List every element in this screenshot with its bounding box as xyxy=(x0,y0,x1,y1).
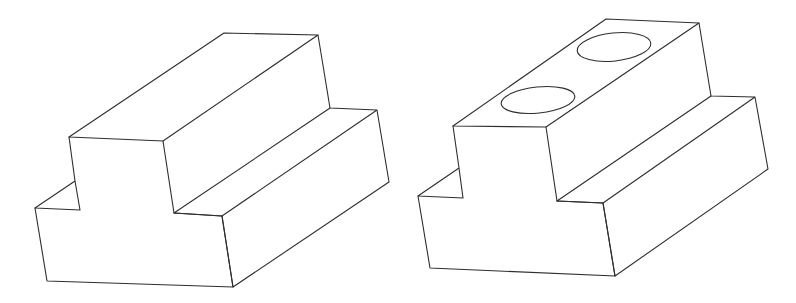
edge-line xyxy=(35,137,80,210)
edge-line xyxy=(557,96,711,203)
edge-line xyxy=(174,108,330,216)
diagram-canvas xyxy=(0,0,796,303)
isometric-drawing xyxy=(0,0,796,303)
t-block-plain xyxy=(35,33,389,287)
t-block-with-holes xyxy=(418,19,768,276)
edge-line xyxy=(69,33,318,141)
edge-line xyxy=(418,126,463,198)
edge-line xyxy=(546,127,557,201)
edge-line xyxy=(163,141,174,213)
edge-line xyxy=(35,208,233,287)
hole-ellipse xyxy=(576,29,653,65)
edge-line xyxy=(453,19,699,127)
edge-line xyxy=(418,196,615,276)
hole-ellipse xyxy=(500,83,576,117)
edge-line xyxy=(222,35,389,287)
edge-line xyxy=(603,23,768,276)
